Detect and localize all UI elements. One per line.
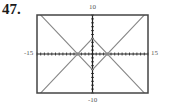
graph-window	[0, 0, 170, 108]
